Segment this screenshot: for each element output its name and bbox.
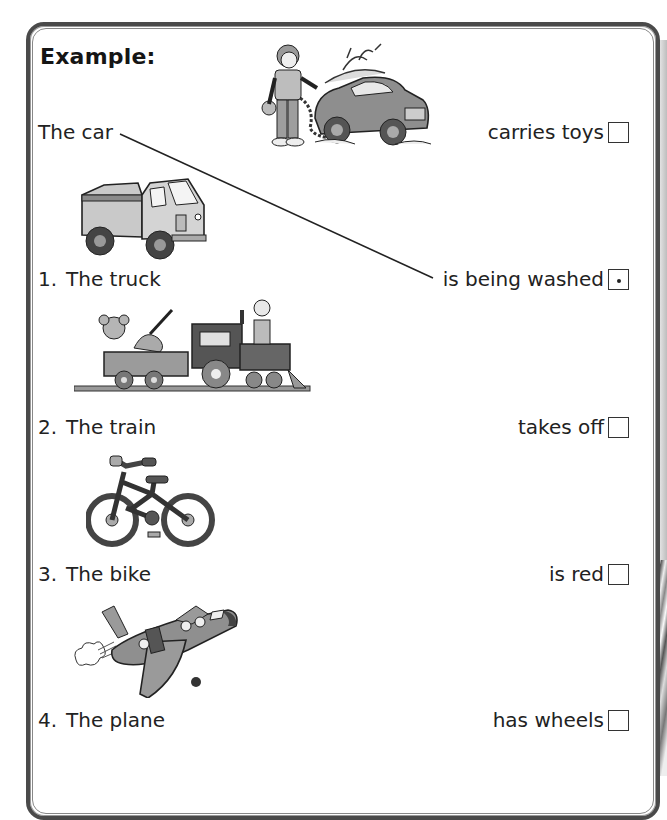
choice-has-wheels: has wheels [493, 708, 629, 732]
item-3-subject: 3.The bike [38, 562, 151, 586]
boy-washing-car-illustration [255, 38, 435, 150]
airplane-illustration [68, 598, 243, 698]
choice-label: is being washed [443, 267, 604, 291]
toy-train-illustration [74, 298, 314, 398]
choice-is-being-washed: is being washed [443, 267, 629, 291]
item-number: 3. [38, 562, 66, 586]
item-number: 1. [38, 267, 66, 291]
item-number: 4. [38, 708, 66, 732]
choice-label: has wheels [493, 708, 604, 732]
example-subject: The car [38, 120, 113, 144]
choice-label: is red [549, 562, 604, 586]
item-number: 2. [38, 415, 66, 439]
choice-is-red: is red [549, 562, 629, 586]
choice-label: carries toys [488, 120, 604, 144]
choice-checkbox[interactable] [608, 269, 629, 290]
bicycle-illustration [86, 452, 216, 552]
item-2-subject: 2.The train [38, 415, 156, 439]
choice-checkbox[interactable] [608, 122, 629, 143]
item-1-subject: 1.The truck [38, 267, 161, 291]
choice-carries-toys: carries toys [488, 120, 629, 144]
choice-checkbox[interactable] [608, 710, 629, 731]
choice-checkbox[interactable] [608, 417, 629, 438]
item-4-subject: 4.The plane [38, 708, 165, 732]
choice-label: takes off [518, 415, 604, 439]
choice-takes-off: takes off [518, 415, 629, 439]
choice-checkbox[interactable] [608, 564, 629, 585]
truck-illustration [78, 175, 208, 263]
